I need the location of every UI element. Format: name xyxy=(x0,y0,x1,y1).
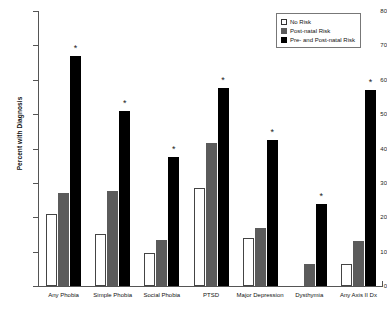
legend-swatch-icon xyxy=(281,37,287,43)
bar xyxy=(304,264,315,286)
bar xyxy=(107,191,118,286)
x-tick-label: PTSD xyxy=(186,292,235,298)
plot-area: ******* xyxy=(39,11,383,286)
bar-chart: 01020304050607080 Percent with Diagnosis… xyxy=(0,0,387,326)
legend-swatch-icon xyxy=(281,19,287,25)
x-tick-label: Simple Phobia xyxy=(88,292,137,298)
x-tick-label: Any Phobia xyxy=(39,292,88,298)
bar xyxy=(144,253,155,286)
bar xyxy=(168,157,179,286)
bar xyxy=(341,264,352,286)
significance-marker: * xyxy=(216,76,230,85)
significance-marker: * xyxy=(314,192,328,201)
legend-swatch-icon xyxy=(281,28,287,34)
bar-group: * xyxy=(292,11,327,286)
bar-group: * xyxy=(95,11,130,286)
bar xyxy=(206,143,217,286)
bar xyxy=(255,228,266,286)
bar xyxy=(46,214,57,286)
bar xyxy=(194,188,205,286)
bar xyxy=(58,193,69,286)
bar xyxy=(156,240,167,286)
legend-item: Post-natal Risk xyxy=(281,26,355,35)
legend-label: No Risk xyxy=(290,19,311,25)
significance-marker: * xyxy=(167,145,181,154)
bar-group: * xyxy=(144,11,179,286)
x-tick-label: Dysthymia xyxy=(285,292,334,298)
bar xyxy=(267,140,278,286)
bar xyxy=(70,56,81,286)
significance-marker: * xyxy=(118,99,132,108)
x-tick-label: Social Phobia xyxy=(137,292,186,298)
x-tick-label: Major Depression xyxy=(236,292,285,298)
bar xyxy=(95,234,106,286)
bar-group: * xyxy=(243,11,278,286)
bar xyxy=(243,238,254,286)
significance-marker: * xyxy=(265,128,279,137)
bar xyxy=(316,204,327,287)
legend-item: Pre- and Post-natal Risk xyxy=(281,35,355,44)
x-tick-label: Any Axis II Dx xyxy=(334,292,383,298)
bar-group: * xyxy=(341,11,376,286)
y-axis-title: Percent with Diagnosis xyxy=(16,79,23,189)
legend-label: Pre- and Post-natal Risk xyxy=(290,37,355,43)
bar xyxy=(353,241,364,286)
legend: No RiskPost-natal RiskPre- and Post-nata… xyxy=(276,13,361,48)
legend-item: No Risk xyxy=(281,17,355,26)
bar xyxy=(218,88,229,286)
bar-group: * xyxy=(46,11,81,286)
legend-label: Post-natal Risk xyxy=(290,28,330,34)
significance-marker: * xyxy=(363,78,377,87)
bar-group: * xyxy=(194,11,229,286)
x-axis-line xyxy=(38,286,383,287)
bar xyxy=(365,90,376,286)
significance-marker: * xyxy=(69,44,83,53)
bar xyxy=(119,111,130,286)
